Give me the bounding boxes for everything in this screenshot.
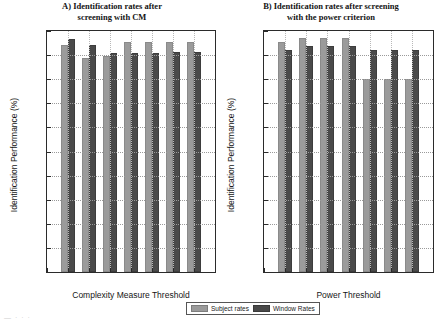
- figure: A) Identification rates after screening …: [0, 0, 441, 327]
- bar-window-rate: [173, 52, 180, 272]
- x-tick-mark: [110, 268, 111, 272]
- x-tick-mark: [131, 268, 132, 272]
- panel-a-title-line1: A) Identification rates after: [6, 1, 218, 12]
- y-tick-mark: [47, 248, 51, 249]
- bar-window-rate: [68, 39, 75, 272]
- bar-subject-rate: [320, 38, 327, 272]
- x-gridline: [327, 31, 328, 272]
- y-tick-mark: [47, 31, 51, 32]
- y-tick-mark: [47, 55, 51, 56]
- bar-window-rate: [110, 53, 117, 272]
- legend-swatch-subject-icon: [191, 305, 208, 312]
- x-tick-mark: [264, 268, 265, 272]
- bar-window-rate: [285, 50, 292, 272]
- panel-b-yaxis-label: Identification Performance (%): [226, 55, 236, 255]
- x-tick-mark: [433, 268, 434, 272]
- x-gridline: [194, 31, 195, 272]
- bar-subject-rate: [103, 56, 110, 272]
- x-gridline: [391, 31, 392, 272]
- legend-label-window: Window Rates: [273, 305, 315, 312]
- x-gridline: [173, 31, 174, 272]
- bar-window-rate: [131, 53, 138, 272]
- panel-b-title: B) Identification rates after screening …: [225, 1, 437, 22]
- x-gridline: [412, 31, 413, 272]
- x-tick-mark: [89, 268, 90, 272]
- legend-item-subject-rates: Subject rates: [191, 305, 249, 312]
- y-tick-mark: [47, 127, 51, 128]
- y-tick-mark: [47, 79, 51, 80]
- bar-window-rate: [412, 50, 419, 272]
- x-tick-mark: [215, 268, 216, 272]
- panel-b-title-line1: B) Identification rates after screening: [225, 1, 437, 12]
- bar-window-rate: [194, 52, 201, 272]
- y-tick-mark: [264, 200, 268, 201]
- x-gridline: [306, 31, 307, 272]
- chart-panel-b: B) Identification rates after screening …: [219, 0, 441, 300]
- y-tick-mark: [264, 103, 268, 104]
- y-tick-mark: [47, 272, 51, 273]
- y-tick-mark: [264, 152, 268, 153]
- y-tick-mark: [264, 248, 268, 249]
- x-gridline: [285, 31, 286, 272]
- x-gridline: [152, 31, 153, 272]
- x-tick-mark: [152, 268, 153, 272]
- y-tick-mark: [264, 31, 268, 32]
- bar-subject-rate: [145, 42, 152, 272]
- x-tick-mark: [173, 268, 174, 272]
- bar-subject-rate: [278, 42, 285, 272]
- x-gridline: [370, 31, 371, 272]
- panel-b-title-line2: with the power criterion: [225, 12, 437, 23]
- x-gridline: [68, 31, 69, 272]
- x-tick-mark: [68, 268, 69, 272]
- x-tick-mark: [194, 268, 195, 272]
- x-tick-mark: [285, 268, 286, 272]
- x-tick-mark: [370, 268, 371, 272]
- y-tick-mark: [47, 224, 51, 225]
- chart-panel-a: A) Identification rates after screening …: [0, 0, 222, 300]
- bar-subject-rate: [187, 42, 194, 272]
- caption-artifact: — · · ·: [4, 314, 31, 321]
- x-tick-mark: [349, 268, 350, 272]
- bar-subject-rate: [82, 58, 89, 272]
- y-tick-mark: [264, 79, 268, 80]
- x-tick-mark: [412, 268, 413, 272]
- panel-b-xaxis-label: Power Threshold: [263, 290, 434, 300]
- y-tick-mark: [264, 176, 268, 177]
- bar-window-rate: [391, 50, 398, 272]
- panel-a-title-line2: screening with CM: [6, 12, 218, 23]
- x-tick-mark: [47, 268, 48, 272]
- x-tick-mark: [391, 268, 392, 272]
- bar-subject-rate: [124, 42, 131, 272]
- y-tick-mark: [47, 200, 51, 201]
- x-tick-mark: [306, 268, 307, 272]
- x-tick-mark: [327, 268, 328, 272]
- y-tick-mark: [47, 103, 51, 104]
- y-tick-mark: [47, 152, 51, 153]
- x-gridline: [349, 31, 350, 272]
- x-gridline: [131, 31, 132, 272]
- y-tick-mark: [47, 176, 51, 177]
- bar-subject-rate: [166, 42, 173, 272]
- panel-b-plot-area: 010203040506070809010033.544.555.566.57: [263, 30, 434, 273]
- legend-label-subject: Subject rates: [211, 305, 249, 312]
- panel-a-title: A) Identification rates after screening …: [6, 1, 218, 22]
- y-tick-mark: [264, 272, 268, 273]
- bar-window-rate: [152, 53, 159, 272]
- bar-window-rate: [370, 50, 377, 272]
- x-gridline: [110, 31, 111, 272]
- legend-item-window-rates: Window Rates: [253, 305, 315, 312]
- panel-a-yaxis-label: Identification Performance (%): [9, 55, 19, 255]
- x-gridline: [89, 31, 90, 272]
- panel-a-plot-area: 01020304050607080901000.0250.030.0350.04…: [46, 30, 216, 273]
- chart-legend: Subject rates Window Rates: [186, 302, 320, 315]
- y-tick-mark: [264, 127, 268, 128]
- legend-swatch-window-icon: [253, 305, 270, 312]
- panel-a-xaxis-label: Complexity Measure Threshold: [46, 290, 216, 300]
- bar-subject-rate: [342, 38, 349, 272]
- y-tick-mark: [264, 55, 268, 56]
- bar-subject-rate: [299, 38, 306, 272]
- y-tick-mark: [264, 224, 268, 225]
